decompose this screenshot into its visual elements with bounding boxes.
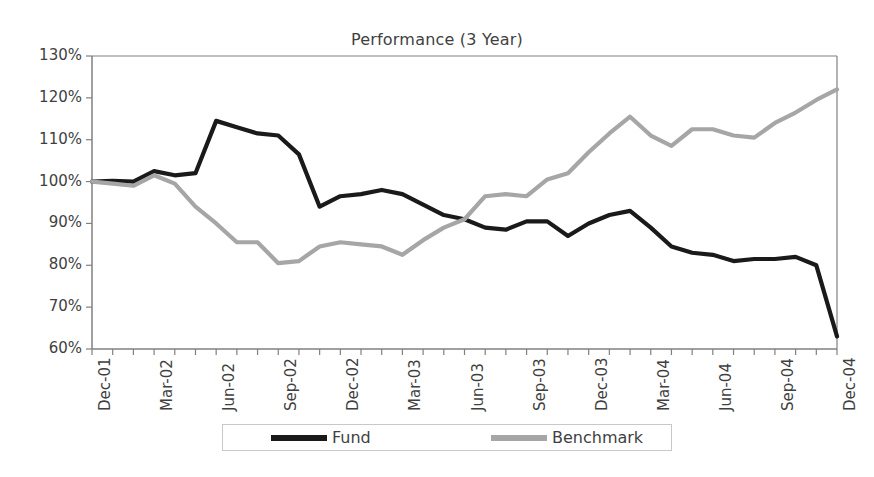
- y-axis-label: 70%: [20, 299, 82, 314]
- x-axis-label: Sep-02: [284, 358, 299, 411]
- y-axis-label: 100%: [20, 174, 82, 189]
- chart-legend: Fund Benchmark: [222, 424, 672, 451]
- performance-chart: Performance (3 Year) 130%120%110%100%90%…: [0, 0, 874, 477]
- y-axis-label: 110%: [20, 132, 82, 147]
- y-axis-label: 90%: [20, 215, 82, 230]
- y-axis-label: 60%: [20, 341, 82, 356]
- x-axis-label: Dec-01: [98, 357, 113, 411]
- y-axis-label: 80%: [20, 257, 82, 272]
- x-axis-label: Mar-04: [657, 359, 672, 411]
- legend-label-benchmark: Benchmark: [552, 428, 643, 447]
- series-line-benchmark: [92, 89, 837, 263]
- x-axis-label: Jun-04: [719, 363, 734, 411]
- legend-item-fund[interactable]: Fund: [271, 425, 371, 450]
- y-axis-label: 120%: [20, 90, 82, 105]
- x-axis-label: Dec-02: [346, 357, 361, 411]
- plot-area: [0, 0, 874, 477]
- x-axis-label: Jun-02: [222, 363, 237, 411]
- legend-label-fund: Fund: [332, 428, 371, 447]
- x-axis-label: Dec-04: [843, 357, 858, 411]
- series-lines: [92, 89, 837, 336]
- x-axis-label: Jun-03: [471, 363, 486, 411]
- legend-swatch-benchmark-icon: [491, 435, 547, 441]
- series-line-fund: [92, 121, 837, 337]
- x-axis-label: Mar-02: [160, 359, 175, 411]
- x-axis-label: Dec-03: [595, 357, 610, 411]
- y-axis-label: 130%: [20, 48, 82, 63]
- legend-swatch-fund-icon: [271, 435, 327, 441]
- legend-item-benchmark[interactable]: Benchmark: [491, 425, 643, 450]
- axis-lines: [86, 56, 837, 355]
- x-axis-label: Sep-03: [533, 358, 548, 411]
- x-axis-label: Mar-03: [408, 359, 423, 411]
- x-axis-label: Sep-04: [781, 358, 796, 411]
